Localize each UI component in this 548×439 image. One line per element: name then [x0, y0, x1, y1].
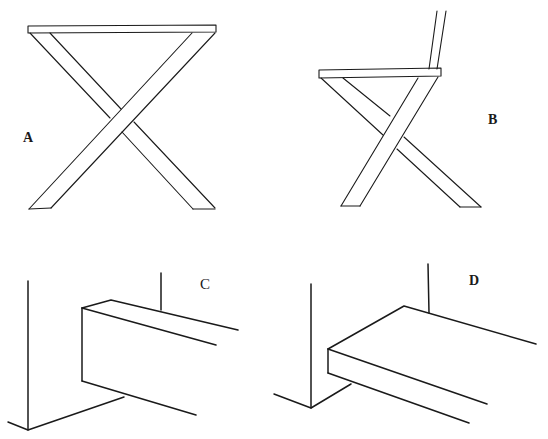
panel-d-drawing [274, 264, 536, 423]
panel-a-label: A [23, 130, 34, 145]
panel-a-drawing [28, 25, 216, 209]
panel-c-drawing [8, 273, 238, 430]
panel-b-drawing [319, 11, 481, 207]
panel-d-label: D [469, 273, 479, 288]
panel-b-label: B [488, 112, 497, 127]
panel-c-label: C [200, 276, 210, 292]
diagram-canvas: A B C [0, 0, 548, 439]
